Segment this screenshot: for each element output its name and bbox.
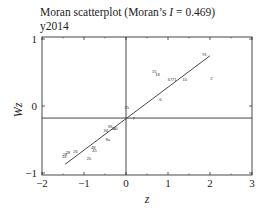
data-point-label: 71	[172, 77, 177, 82]
data-point-label: 91	[202, 52, 207, 57]
data-point-label: 34	[104, 128, 109, 133]
axis-ticks	[42, 37, 252, 175]
data-point-label: 2	[210, 76, 213, 81]
svg-text:0: 0	[123, 177, 129, 189]
axis-tick-labels: −2−1012310−1	[25, 33, 255, 189]
data-point-label: 40	[113, 126, 118, 131]
scatterplot: −2−1012310−1 91151826771106557393430408a…	[0, 0, 263, 211]
svg-text:1: 1	[32, 33, 38, 45]
data-point-label: 45	[92, 148, 97, 153]
regression-line	[65, 56, 210, 165]
data-point-label: 24	[62, 154, 67, 159]
data-point-label: 20	[87, 156, 92, 161]
svg-text:0: 0	[32, 100, 38, 112]
svg-text:−1: −1	[25, 167, 37, 179]
svg-text:−1: −1	[78, 177, 90, 189]
svg-text:2: 2	[207, 177, 213, 189]
data-point-label: 8a	[106, 137, 111, 142]
data-point-labels: 91151826771106557393430408a4845262829242…	[62, 52, 213, 161]
y-axis-label: Wz	[11, 102, 25, 117]
svg-text:−2: −2	[36, 177, 48, 189]
data-point-label: 26	[73, 149, 78, 154]
svg-text:1: 1	[165, 177, 171, 189]
data-point-label: 6	[159, 97, 162, 102]
svg-text:3: 3	[249, 177, 255, 189]
data-point-label: 55	[125, 105, 130, 110]
plot-frame	[42, 37, 252, 175]
x-axis-label: z	[144, 192, 150, 206]
data-point-label: 18	[155, 72, 160, 77]
data-point-label: 10	[183, 77, 188, 82]
